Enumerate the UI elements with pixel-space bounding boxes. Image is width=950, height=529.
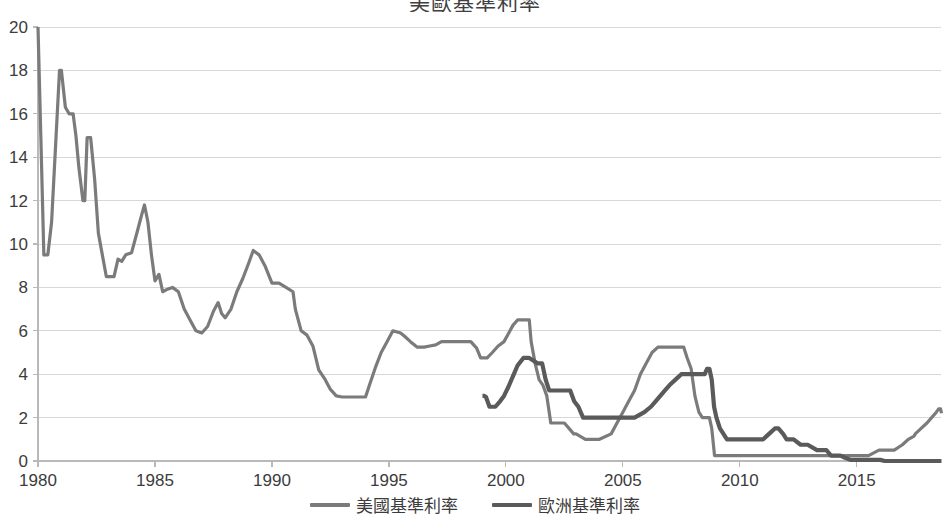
series-line-us [38, 27, 941, 456]
y-tick-label: 0 [19, 452, 28, 471]
x-tick-label: 2010 [721, 471, 759, 490]
gridlines [38, 27, 941, 418]
legend-label-us: 美國基準利率 [356, 492, 458, 517]
legend-label-europe: 歐洲基準利率 [538, 492, 640, 517]
x-tick-label: 1980 [19, 471, 57, 490]
y-tick-label: 10 [9, 235, 28, 254]
x-tick-label: 1990 [253, 471, 291, 490]
chart-legend: 美國基準利率 歐洲基準利率 [0, 492, 950, 517]
y-tick-label: 16 [9, 105, 28, 124]
chart-plot-area: 02468101214161820 1980198519901995200020… [0, 0, 950, 529]
y-axis-tick-labels: 02468101214161820 [9, 18, 28, 471]
legend-item-us[interactable]: 美國基準利率 [310, 492, 458, 517]
y-tick-label: 20 [9, 18, 28, 37]
x-tick-label: 2015 [838, 471, 876, 490]
legend-item-europe[interactable]: 歐洲基準利率 [492, 492, 640, 517]
x-tick-label: 1985 [136, 471, 174, 490]
y-tick-label: 14 [9, 148, 28, 167]
y-tick-label: 6 [19, 322, 28, 341]
y-tick-label: 12 [9, 192, 28, 211]
y-tick-label: 2 [19, 409, 28, 428]
x-tick-label: 1995 [370, 471, 408, 490]
x-tick-label: 2000 [487, 471, 525, 490]
chart-container: 美歐基準利率 02468101214161820 198019851990199… [0, 0, 950, 529]
x-axis-tick-labels: 19801985199019952000200520102015 [19, 471, 876, 490]
y-tick-label: 8 [19, 278, 28, 297]
legend-swatch-us [310, 503, 350, 507]
y-tick-label: 18 [9, 61, 28, 80]
y-tick-label: 4 [19, 365, 28, 384]
legend-swatch-europe [492, 503, 532, 507]
x-tick-label: 2005 [604, 471, 642, 490]
